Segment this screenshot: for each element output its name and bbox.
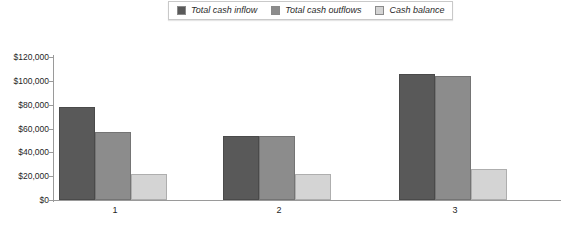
bar-group: [399, 57, 511, 200]
bar[interactable]: [59, 107, 95, 200]
bar[interactable]: [259, 136, 295, 200]
y-axis-tick-label: $60,000: [18, 124, 49, 134]
bar[interactable]: [471, 169, 507, 200]
bar[interactable]: [131, 174, 167, 200]
bar[interactable]: [95, 132, 131, 200]
plot-area: [53, 57, 558, 200]
bar[interactable]: [435, 76, 471, 200]
legend-label: Cash balance: [389, 6, 444, 15]
x-axis-category-label: 3: [452, 205, 457, 215]
bar-group: [223, 57, 335, 200]
bar-chart: Total cash inflow Total cash outflows Ca…: [0, 0, 570, 230]
legend-label: Total cash outflows: [285, 6, 361, 15]
y-axis-tick-label: $100,000: [14, 76, 49, 86]
legend-label: Total cash inflow: [191, 6, 257, 15]
bar[interactable]: [399, 74, 435, 200]
legend-swatch-icon: [177, 6, 186, 15]
y-axis-tick-label: $20,000: [18, 171, 49, 181]
legend-item-cash-balance[interactable]: Cash balance: [375, 6, 444, 15]
x-axis-category-label: 1: [112, 205, 117, 215]
legend-swatch-icon: [375, 6, 384, 15]
bar[interactable]: [223, 136, 259, 200]
bar[interactable]: [295, 174, 331, 200]
x-axis-line: [53, 200, 561, 201]
legend-item-total-cash-inflow[interactable]: Total cash inflow: [177, 6, 257, 15]
bar-group: [59, 57, 171, 200]
legend-item-total-cash-outflows[interactable]: Total cash outflows: [271, 6, 361, 15]
y-axis-tick-label: $120,000: [14, 52, 49, 62]
chart-legend: Total cash inflow Total cash outflows Ca…: [168, 1, 453, 20]
y-axis-tick-label: $80,000: [18, 100, 49, 110]
y-axis-tick-mark: [48, 200, 53, 201]
x-axis-category-label: 2: [276, 205, 281, 215]
y-axis-tick-label: $40,000: [18, 147, 49, 157]
legend-swatch-icon: [271, 6, 280, 15]
